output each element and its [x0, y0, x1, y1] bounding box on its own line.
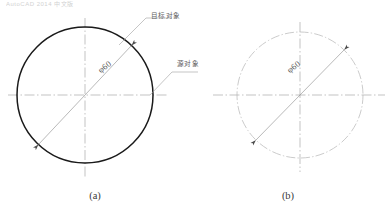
- source-object-label: 源对象: [177, 58, 199, 68]
- caption-figure-b: (b): [268, 190, 308, 201]
- cad-drawing-canvas: [0, 0, 392, 215]
- leader-source-object: [150, 72, 198, 95]
- figure-b-group: [213, 22, 385, 172]
- technical-drawing-figure: AutoCAD 2014 中文版: [0, 0, 392, 215]
- figure-a-group: [8, 18, 198, 177]
- target-object-label: 目标对象: [151, 10, 180, 20]
- caption-figure-a: (a): [75, 190, 115, 201]
